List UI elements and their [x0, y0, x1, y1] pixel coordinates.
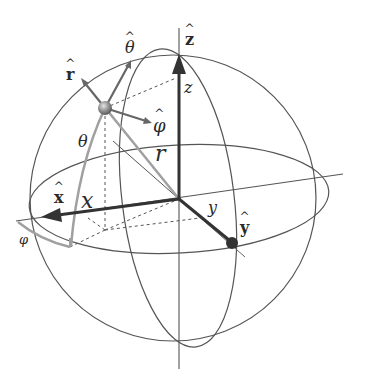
label-z: z [184, 80, 192, 96]
z-arrow-icon [172, 54, 186, 74]
label-r-hat: r [66, 67, 74, 83]
y-axis-back-line [113, 141, 179, 199]
label-theta-hat: θ [125, 40, 135, 56]
label-r: r [155, 143, 166, 165]
label-x-hat: x [54, 190, 64, 206]
sphere-point-icon [98, 101, 112, 115]
label-phi: φ [19, 233, 28, 246]
x-arrow-icon [41, 208, 62, 222]
label-z-hat: z [185, 32, 194, 48]
label-y-hat: y [240, 220, 249, 236]
y-vector [179, 199, 229, 240]
phi-hat-arrow-icon [143, 117, 152, 124]
label-phi-hat: φ [153, 117, 166, 135]
theta-meridian-arc [71, 108, 105, 246]
y-ball-icon [226, 237, 238, 249]
r-vector [107, 110, 179, 199]
unit-vectors [81, 60, 152, 124]
label-theta: θ [78, 134, 88, 150]
label-y: y [208, 200, 217, 216]
label-x: x [81, 190, 93, 212]
